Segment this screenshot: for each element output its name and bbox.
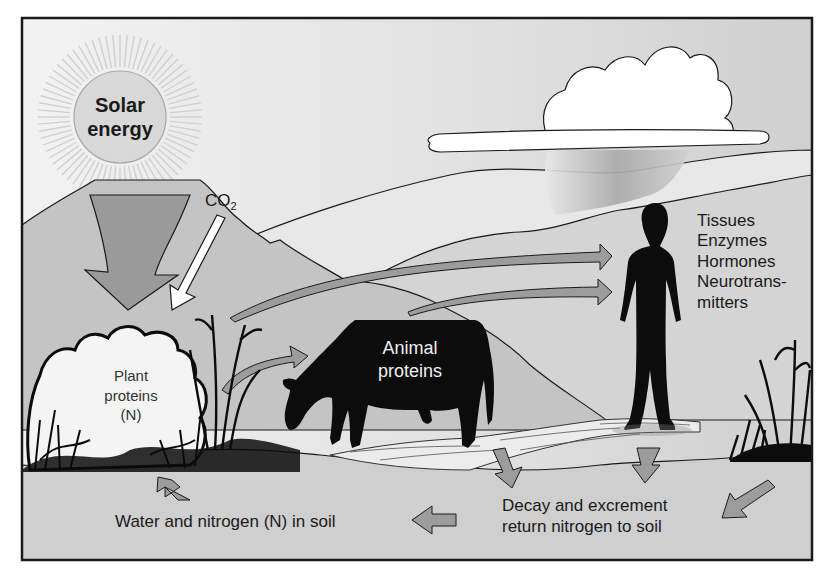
sun-label-line2: energy [60, 117, 180, 141]
plant-label-line1: Plant [88, 366, 174, 386]
human-product-neurotransmitters-line1: Neurotrans- [697, 272, 787, 292]
sun-label-line1: Solar [60, 93, 180, 117]
plant-label-line3: (N) [88, 405, 174, 425]
diagram-canvas: Solar energy CO2 Tissues Enzymes Hormone… [0, 0, 829, 573]
human-shadow [612, 424, 692, 436]
animal-label-line1: Animal [355, 337, 465, 360]
co2-subscript: 2 [231, 200, 237, 212]
decay-label-line1: Decay and excrement [502, 496, 667, 517]
plant-proteins-label: Plant proteins (N) [88, 366, 174, 425]
human-products-list: Tissues Enzymes Hormones Neurotrans- mit… [697, 211, 787, 313]
decay-label: Decay and excrement return nitrogen to s… [502, 496, 667, 537]
co2-label: CO2 [205, 191, 237, 213]
soil-nitrogen-label: Water and nitrogen (N) in soil [115, 512, 335, 531]
animal-label-line2: proteins [355, 360, 465, 383]
decay-label-line2: return nitrogen to soil [502, 517, 667, 538]
human-product-tissues: Tissues [697, 211, 787, 231]
plant-label-line2: proteins [88, 386, 174, 406]
human-product-enzymes: Enzymes [697, 231, 787, 251]
human-product-hormones: Hormones [697, 252, 787, 272]
human-product-neurotransmitters-line2: mitters [697, 293, 787, 313]
co2-text: CO [205, 191, 231, 210]
animal-proteins-label: Animal proteins [355, 337, 465, 382]
sun-label: Solar energy [60, 93, 180, 141]
